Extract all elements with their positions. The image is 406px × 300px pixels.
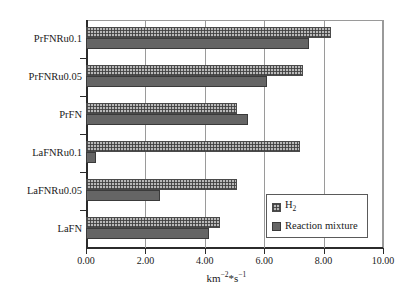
y-axis-line bbox=[86, 20, 88, 249]
bar-h2-lafnru0-05 bbox=[86, 179, 237, 190]
y-tick-divider bbox=[80, 210, 86, 211]
legend-label-reaction-mixture: Reaction mixture bbox=[285, 220, 358, 232]
x-tick-label-0.00: 0.00 bbox=[66, 255, 106, 267]
y-axis-label-prfnru0-1: PrFNRu0.1 bbox=[34, 33, 82, 45]
bar-reaction-mixture-lafnru0-1 bbox=[86, 152, 96, 163]
y-axis-label-prfn: PrFN bbox=[59, 109, 82, 121]
x-tick-label-4.00: 4.00 bbox=[185, 255, 225, 267]
x-tick-0.00 bbox=[86, 249, 87, 254]
x-tick-10.00 bbox=[383, 249, 384, 254]
y-axis-label-lafn: LaFN bbox=[58, 223, 83, 235]
legend-item-h2: H2 bbox=[272, 199, 362, 215]
x-tick-6.00 bbox=[264, 249, 265, 254]
bar-h2-prfn bbox=[86, 103, 237, 114]
y-tick-divider bbox=[80, 134, 86, 135]
legend-item-reaction-mixture: Reaction mixture bbox=[272, 220, 362, 232]
legend-label-h2: H2 bbox=[285, 199, 296, 215]
bar-reaction-mixture-lafn bbox=[86, 228, 209, 239]
legend-swatch-h2 bbox=[272, 203, 281, 212]
x-tick-label-10.00: 10.00 bbox=[363, 255, 403, 267]
bar-reaction-mixture-prfnru0-05 bbox=[86, 76, 267, 87]
x-tick-2.00 bbox=[145, 249, 146, 254]
x-tick-label-6.00: 6.00 bbox=[244, 255, 284, 267]
x-axis-line bbox=[86, 247, 384, 249]
bar-chart: 0.002.004.006.008.0010.00 PrFNRu0.1PrFNR… bbox=[0, 0, 406, 300]
bar-reaction-mixture-prfn bbox=[86, 114, 248, 125]
x-tick-label-2.00: 2.00 bbox=[125, 255, 165, 267]
y-tick-divider bbox=[80, 96, 86, 97]
bar-h2-lafnru0-1 bbox=[86, 141, 300, 152]
gridline-4.00 bbox=[205, 20, 206, 248]
y-axis-label-lafnru0-05: LaFNRu0.05 bbox=[27, 185, 82, 197]
x-tick-4.00 bbox=[205, 249, 206, 254]
legend-swatch-reaction-mixture bbox=[272, 222, 281, 231]
gridline-10.00 bbox=[383, 20, 384, 248]
bar-h2-prfnru0-1 bbox=[86, 27, 331, 38]
y-axis-label-prfnru0-05: PrFNRu0.05 bbox=[29, 71, 82, 83]
x-tick-label-8.00: 8.00 bbox=[304, 255, 344, 267]
y-axis-label-lafnru0-1: LaFNRu0.1 bbox=[32, 147, 82, 159]
y-tick-divider bbox=[80, 172, 86, 173]
gridline-2.00 bbox=[145, 20, 146, 248]
chart-legend: H2 Reaction mixture bbox=[266, 194, 368, 238]
x-axis-title: km−2*s−1 bbox=[207, 268, 247, 285]
bar-reaction-mixture-prfnru0-1 bbox=[86, 38, 309, 49]
y-tick-divider bbox=[80, 58, 86, 59]
bar-h2-lafn bbox=[86, 217, 220, 228]
bar-h2-prfnru0-05 bbox=[86, 65, 303, 76]
x-tick-8.00 bbox=[324, 249, 325, 254]
bar-reaction-mixture-lafnru0-05 bbox=[86, 190, 160, 201]
